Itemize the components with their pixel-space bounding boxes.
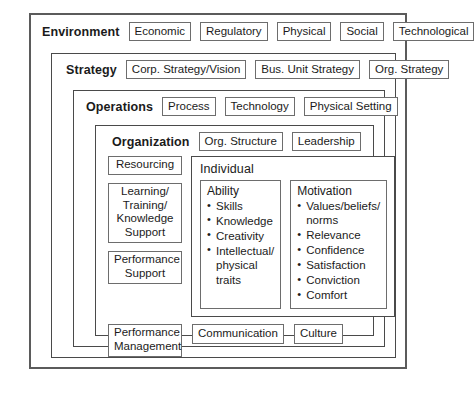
operations-header-row: Operations Process Technology Physical S…: [74, 91, 384, 116]
individual-box: Individual Ability Skills Knowledge Crea…: [191, 156, 395, 317]
list-item: Skills: [207, 199, 274, 213]
organization-body: Resourcing Learning/Training/KnowledgeSu…: [108, 156, 362, 327]
layer-title-organization: Organization: [112, 135, 190, 149]
organization-header-row: Organization Org. Structure Leadership: [96, 126, 373, 151]
ability-title: Ability: [207, 184, 274, 198]
tag-performance-support: PerformanceSupport: [108, 251, 182, 284]
strategy-header-row: Strategy Corp. Strategy/Vision Bus. Unit…: [52, 54, 395, 79]
tag-corp-strategy-vision: Corp. Strategy/Vision: [126, 60, 246, 79]
tag-process: Process: [162, 97, 216, 116]
tag-social: Social: [340, 22, 383, 41]
motivation-box: Motivation Values/beliefs/norms Relevanc…: [290, 180, 387, 309]
tag-culture: Culture: [294, 324, 343, 343]
list-item: Confidence: [297, 243, 380, 257]
individual-columns: Ability Skills Knowledge Creativity Inte…: [200, 180, 387, 309]
list-item: Conviction: [297, 273, 380, 287]
layer-strategy: Strategy Corp. Strategy/Vision Bus. Unit…: [51, 53, 396, 358]
list-item: Relevance: [297, 228, 380, 242]
list-item: Satisfaction: [297, 258, 380, 272]
ability-list: Skills Knowledge Creativity Intellectual…: [207, 199, 274, 287]
tag-performance-management: PerformanceManagement: [108, 324, 182, 357]
enabler-row: PerformanceManagement Communication Cult…: [108, 324, 362, 357]
tag-resourcing: Resourcing: [108, 156, 182, 175]
ability-box: Ability Skills Knowledge Creativity Inte…: [200, 180, 281, 309]
tag-economic: Economic: [129, 22, 192, 41]
tag-physical-setting: Physical Setting: [304, 97, 398, 116]
tag-learning-training-knowledge-support: Learning/Training/KnowledgeSupport: [108, 183, 182, 243]
list-item: Comfort: [297, 288, 380, 302]
environment-header-row: Environment Economic Regulatory Physical…: [31, 15, 405, 41]
layer-environment: Environment Economic Regulatory Physical…: [29, 13, 407, 369]
layer-title-strategy: Strategy: [66, 63, 117, 77]
support-column: Resourcing Learning/Training/KnowledgeSu…: [108, 156, 182, 284]
individual-title: Individual: [200, 162, 387, 176]
layer-title-operations: Operations: [86, 100, 153, 114]
tag-org-strategy: Org. Strategy: [369, 60, 449, 79]
list-item: Values/beliefs/norms: [297, 199, 380, 228]
tag-leadership: Leadership: [292, 132, 361, 151]
tag-regulatory: Regulatory: [200, 22, 268, 41]
layer-operations: Operations Process Technology Physical S…: [73, 90, 385, 347]
list-item: Intellectual/physical traits: [207, 244, 274, 287]
list-item: Creativity: [207, 229, 274, 243]
tag-technology: Technology: [225, 97, 295, 116]
tag-communication: Communication: [192, 324, 284, 343]
motivation-list: Values/beliefs/norms Relevance Confidenc…: [297, 199, 380, 303]
layer-organization: Organization Org. Structure Leadership R…: [95, 125, 374, 336]
tag-org-structure: Org. Structure: [199, 132, 283, 151]
list-item: Knowledge: [207, 214, 274, 228]
motivation-title: Motivation: [297, 184, 380, 198]
tag-technological: Technological: [393, 22, 474, 41]
organization-main-row: Resourcing Learning/Training/KnowledgeSu…: [108, 156, 362, 317]
layer-title-environment: Environment: [42, 25, 120, 39]
tag-physical: Physical: [277, 22, 332, 41]
tag-bus-unit-strategy: Bus. Unit Strategy: [255, 60, 360, 79]
